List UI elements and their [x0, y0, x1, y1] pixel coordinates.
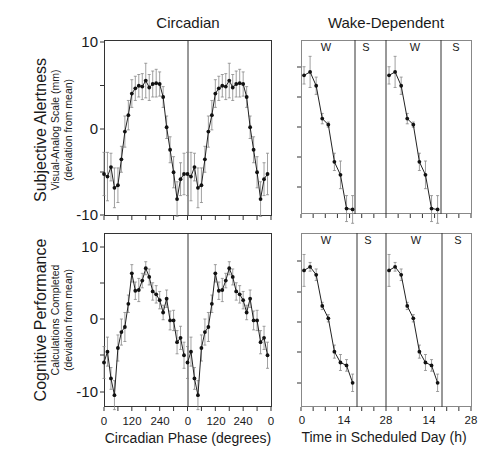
data-point [262, 177, 266, 181]
data-point [345, 364, 349, 368]
data-point [393, 265, 397, 269]
data-point [411, 316, 415, 320]
wake-label: W [321, 41, 332, 53]
data-point [320, 117, 324, 121]
data-point [417, 160, 421, 164]
data-point [436, 381, 440, 385]
x-ticks-circadian: 0 120 240 0 120 240 0 [101, 415, 274, 427]
data-point [227, 266, 231, 270]
data-point [393, 70, 397, 74]
data-point [200, 183, 204, 187]
data-point [302, 269, 306, 273]
series-line [389, 72, 438, 210]
x-tick-label: 28 [465, 414, 478, 426]
data-point [158, 298, 162, 302]
data-point [154, 292, 158, 296]
data-point [245, 95, 249, 99]
data-point [109, 377, 113, 381]
x-tick-label: 14 [338, 414, 351, 426]
data-point [339, 361, 343, 365]
x-ticks-scheduled-day: 0 14 28 14 28 [299, 414, 478, 426]
data-point [165, 297, 169, 301]
series-performance-circadian [102, 262, 269, 410]
data-point [137, 288, 141, 292]
x-axis-title-scheduled-day: Time in Scheduled Day (h) [301, 429, 466, 445]
y-tick-top-minus10: -10 [76, 206, 98, 223]
series-line [104, 81, 184, 200]
data-point [151, 290, 155, 294]
data-point [332, 160, 336, 164]
data-point [116, 183, 120, 187]
data-point [113, 186, 117, 190]
data-point [417, 350, 421, 354]
data-point [140, 279, 144, 283]
series-line [188, 81, 268, 200]
panel-top-right: W S W S [302, 40, 472, 223]
data-point [113, 393, 117, 397]
data-point [182, 353, 186, 357]
data-point [147, 275, 151, 279]
data-point [308, 265, 312, 269]
data-point [172, 319, 176, 323]
data-point [351, 208, 355, 212]
x-tick-label: 240 [233, 415, 252, 427]
data-point [387, 269, 391, 273]
x-axis-title-circadian: Circadian Phase (degrees) [105, 430, 272, 446]
data-point [430, 207, 434, 211]
data-point [302, 73, 306, 77]
y-axis-label-performance: Cognitive Performance Calculations Compl… [32, 239, 74, 402]
series-alertness-circadian [102, 63, 269, 216]
data-point [262, 336, 266, 340]
data-point [172, 170, 176, 174]
series-line [104, 268, 184, 395]
data-point [189, 175, 193, 179]
data-point [210, 302, 214, 306]
data-point [144, 79, 148, 83]
figure-canvas: Circadian Wake-Dependent Subjective Aler… [0, 0, 490, 456]
y-tick-bottom-10: 10 [81, 238, 98, 255]
data-point [259, 197, 263, 201]
data-point [196, 393, 200, 397]
data-point [189, 350, 193, 354]
data-point [266, 353, 270, 357]
data-point [405, 304, 409, 308]
data-point [130, 92, 134, 96]
data-point [266, 172, 270, 176]
data-point [399, 273, 403, 277]
data-point [151, 82, 155, 86]
data-point [193, 165, 197, 169]
y-axis-subtitle-alertness-2: (deviation from mean) [62, 79, 74, 181]
data-point [224, 279, 228, 283]
data-point [252, 148, 256, 152]
data-point [241, 82, 245, 86]
x-tick-label: 120 [206, 415, 225, 427]
y-tick-top-10: 10 [81, 33, 98, 50]
data-point [259, 340, 263, 344]
data-point [255, 170, 259, 174]
x-tick-label: 14 [423, 414, 436, 426]
data-point [238, 81, 242, 85]
data-point [123, 130, 127, 134]
panel-top-left [102, 40, 271, 216]
data-point [179, 177, 183, 181]
data-point [165, 125, 169, 129]
data-point [158, 82, 162, 86]
data-point [308, 70, 312, 74]
data-point [213, 92, 217, 96]
data-point [102, 172, 106, 176]
data-point [186, 361, 190, 365]
sleep-label: S [454, 234, 461, 246]
series-alertness-wake [302, 56, 439, 223]
data-point [161, 95, 165, 99]
data-point [314, 84, 318, 88]
data-point [424, 361, 428, 365]
data-point [130, 271, 134, 275]
data-point [320, 304, 324, 308]
data-point [116, 346, 120, 350]
data-point [248, 125, 252, 129]
data-point [182, 172, 186, 176]
data-point [399, 84, 403, 88]
data-point [345, 207, 349, 211]
x-tick-label: 0 [101, 415, 107, 427]
data-point [241, 298, 245, 302]
